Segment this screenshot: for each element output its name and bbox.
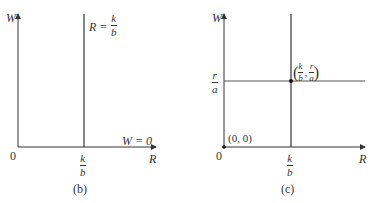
fraction-denominator: b: [287, 167, 293, 178]
panel-b-horizontal-line-label: W = 0: [122, 135, 152, 147]
panel-c-equilibrium-point-label: ( k b , r a ): [293, 62, 319, 83]
panel-b-y-axis-label: W: [6, 12, 16, 24]
panel-b-x-tick-label: k b: [80, 153, 86, 178]
fraction-numerator: r: [213, 70, 217, 81]
panel-c-y-tick-label: r a: [212, 70, 218, 95]
paren-close: ): [314, 65, 319, 81]
panel-b-vertical-line-fraction: k b: [111, 13, 117, 38]
fraction-denominator: b: [80, 167, 86, 178]
panel-c-origin-label: 0: [216, 150, 222, 162]
fraction-denominator: b: [111, 27, 117, 38]
panel-b-axes: [18, 14, 156, 147]
panel-c-y-axis-label: W: [212, 12, 222, 24]
fraction-denominator: a: [212, 84, 218, 95]
separator: ,: [305, 67, 308, 78]
panel-b-origin-label: 0: [10, 150, 16, 162]
fraction-numerator: r: [310, 62, 314, 71]
panel-c-x-tick-label: k b: [287, 153, 293, 178]
fraction-numerator: k: [80, 153, 85, 164]
fraction-numerator: k: [287, 153, 292, 164]
fraction-denominator: b: [298, 74, 303, 83]
panel-b-vertical-line-label: R =: [89, 21, 107, 33]
fraction-numerator: k: [299, 62, 303, 71]
panel-c-origin-point-label: (0, 0): [228, 132, 252, 144]
panel-c-x-axis-label: R: [359, 153, 366, 165]
fraction-numerator: k: [111, 13, 116, 24]
point-x-fraction: k b: [298, 62, 303, 83]
panel-b-x-axis-label: R: [149, 153, 156, 165]
panel-c-caption: (c): [281, 182, 294, 197]
panel-b-caption: (b): [73, 182, 87, 197]
diagram-canvas: [0, 0, 379, 203]
